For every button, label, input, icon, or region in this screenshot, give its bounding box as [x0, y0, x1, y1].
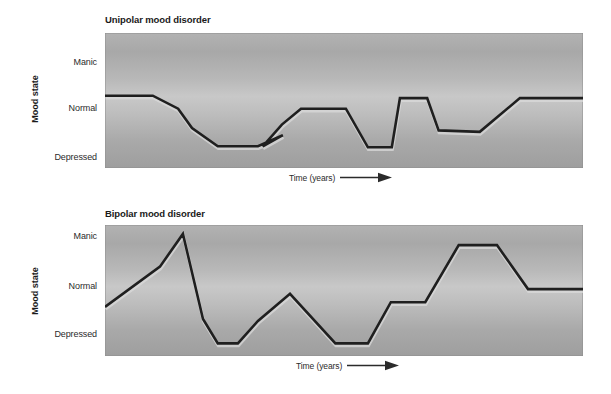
y-tick-normal-unipolar: Normal — [31, 103, 97, 113]
mood-disorder-figure: Unipolar mood disorder Mood state Manic … — [0, 0, 611, 394]
y-tick-manic-unipolar: Manic — [31, 57, 97, 67]
bipolar-line-chart — [105, 225, 583, 356]
panel-title-unipolar: Unipolar mood disorder — [105, 14, 210, 25]
y-tick-depressed-unipolar: Depressed — [21, 152, 97, 162]
y-tick-normal-bipolar: Normal — [31, 281, 97, 291]
plot-area-unipolar — [105, 33, 583, 168]
right-arrow-icon — [340, 172, 392, 183]
y-tick-manic-bipolar: Manic — [31, 231, 97, 241]
unipolar-line-chart — [105, 33, 583, 168]
y-axis-label-unipolar: Mood state — [30, 59, 40, 139]
y-axis-label-bipolar: Mood state — [30, 251, 40, 331]
panel-bipolar: Bipolar mood disorder Mood state Manic N… — [0, 196, 611, 394]
right-arrow-icon — [347, 360, 399, 371]
panel-unipolar: Unipolar mood disorder Mood state Manic … — [0, 0, 611, 196]
x-axis-label-unipolar: Time (years) — [289, 173, 335, 183]
x-axis-bipolar: Time (years) — [296, 360, 399, 371]
x-axis-unipolar: Time (years) — [289, 172, 392, 183]
x-axis-label-bipolar: Time (years) — [296, 361, 342, 371]
panel-title-bipolar: Bipolar mood disorder — [105, 208, 205, 219]
plot-area-bipolar — [105, 225, 583, 356]
y-tick-depressed-bipolar: Depressed — [21, 329, 97, 339]
